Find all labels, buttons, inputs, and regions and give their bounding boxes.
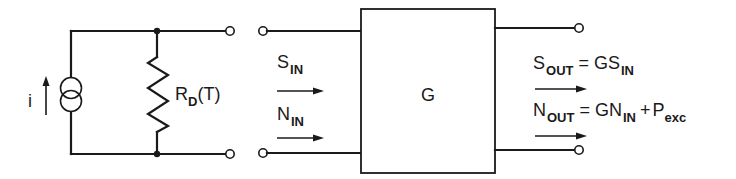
noise-out-arrow-icon <box>535 133 587 140</box>
current-arrow-icon <box>43 76 50 115</box>
gain-block: G <box>361 9 495 173</box>
gain-label: G <box>421 85 435 105</box>
output-terminal-top <box>575 24 583 32</box>
resistor-icon <box>148 31 168 154</box>
source-terminal-bottom <box>226 150 234 158</box>
output-terminal-bottom <box>575 146 583 154</box>
source-circuit: i RD(T) <box>28 27 234 158</box>
noise-in-arrow-icon <box>277 135 324 142</box>
source-terminal-top <box>226 27 234 35</box>
signal-out-equation: SOUT=GSIN <box>533 53 634 78</box>
signal-in-arrow-icon <box>277 88 324 95</box>
current-source-icon <box>61 78 82 112</box>
noise-out-equation: NOUT=GNIN+Pexc <box>533 100 686 125</box>
noise-in-label: NIN <box>277 104 304 129</box>
current-label: i <box>28 91 32 111</box>
amplifier-input: SIN NIN <box>259 27 360 157</box>
resistor-label: RD(T) <box>175 84 220 109</box>
signal-in-label: SIN <box>277 52 303 77</box>
amplifier-output: SOUT=GSIN NOUT=GNIN+Pexc <box>495 24 686 154</box>
noise-model-diagram: i RD(T) SIN NIN <box>0 0 736 179</box>
signal-out-arrow-icon <box>535 86 587 93</box>
